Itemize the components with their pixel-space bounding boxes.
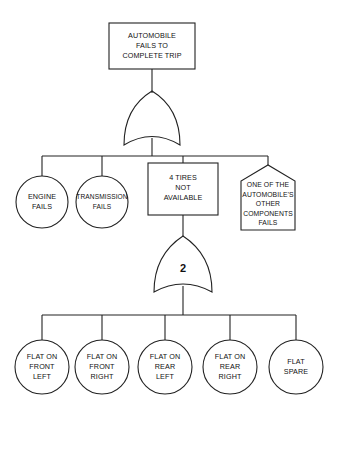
engine-label: ENGINE FAILS	[16, 192, 68, 212]
flat-front-right-label: FLAT ON FRONT RIGHT	[75, 352, 129, 382]
label-line: FLAT	[269, 357, 323, 367]
label-line: ENGINE	[16, 192, 68, 202]
label-line: FLAT ON	[203, 352, 257, 362]
label-line: FAILS TO	[109, 41, 195, 51]
label-line: COMPLETE TRIP	[109, 51, 195, 61]
label-line: REAR	[138, 362, 192, 372]
label-line: SPARE	[269, 367, 323, 377]
label-line: LEFT	[138, 372, 192, 382]
voting-gate-label: 2	[173, 262, 193, 274]
top-event-label: AUTOMOBILE FAILS TO COMPLETE TRIP	[109, 31, 195, 61]
flat-rear-right-label: FLAT ON REAR RIGHT	[203, 352, 257, 382]
label-line: FAILS	[238, 218, 298, 228]
label-line: NOT	[148, 183, 218, 193]
label-line: REAR	[203, 362, 257, 372]
label-line: RIGHT	[75, 372, 129, 382]
label-line: TRANSMISSION	[74, 192, 130, 202]
tires-label: 4 TIRES NOT AVAILABLE	[148, 173, 218, 203]
label-line: FRONT	[15, 362, 69, 372]
transmission-label: TRANSMISSION FAILS	[74, 192, 130, 212]
flat-spare-label: FLAT SPARE	[269, 357, 323, 377]
label-line: AUTOMOBILE'S	[238, 190, 298, 200]
label-line: RIGHT	[203, 372, 257, 382]
label-line: COMPONENTS	[238, 209, 298, 219]
other-components-label: ONE OF THE AUTOMOBILE'S OTHER COMPONENTS…	[238, 180, 298, 228]
fault-tree-diagram	[0, 0, 341, 456]
label-line: FAILS	[16, 202, 68, 212]
label-line: FLAT ON	[75, 352, 129, 362]
label-line: 4 TIRES	[148, 173, 218, 183]
label-line: AVAILABLE	[148, 193, 218, 203]
label-line: FRONT	[75, 362, 129, 372]
label-line: LEFT	[15, 372, 69, 382]
flat-front-left-label: FLAT ON FRONT LEFT	[15, 352, 69, 382]
label-line: ONE OF THE	[238, 180, 298, 190]
label-line: FAILS	[74, 202, 130, 212]
label-line: AUTOMOBILE	[109, 31, 195, 41]
flat-rear-left-label: FLAT ON REAR LEFT	[138, 352, 192, 382]
label-line: FLAT ON	[138, 352, 192, 362]
label-line: OTHER	[238, 199, 298, 209]
or-gate-icon	[124, 91, 180, 145]
label-line: FLAT ON	[15, 352, 69, 362]
